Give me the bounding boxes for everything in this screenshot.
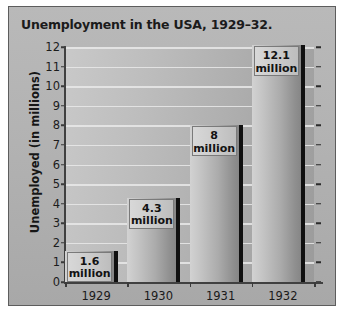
bar-shadow: [114, 251, 118, 282]
y-tick-mark-right: [316, 66, 321, 68]
y-tick-label: 11: [45, 60, 60, 74]
bar-value-label: 12.1million: [254, 46, 299, 76]
y-tick-mark-right: [316, 85, 321, 87]
x-tick-label: 1932: [268, 289, 297, 303]
bar-value-unit: million: [255, 63, 298, 76]
y-tick-label: 5: [53, 177, 60, 191]
bar-shadow: [176, 198, 180, 282]
x-tick-mark: [314, 282, 316, 287]
y-tick-label: 2: [53, 236, 60, 250]
x-tick-mark: [252, 282, 254, 287]
bar[interactable]: [252, 45, 301, 282]
y-tick-label: 0: [53, 275, 60, 289]
bar-group[interactable]: 12.1million: [252, 47, 314, 282]
y-tick-mark-right: [316, 242, 321, 244]
x-tick-label: 1930: [144, 289, 173, 303]
y-tick-mark-right: [316, 223, 321, 225]
y-tick-label: 12: [45, 40, 60, 54]
x-tick-mark: [190, 282, 192, 287]
y-tick-mark-right: [316, 105, 321, 107]
bar-value-number: 8: [193, 130, 236, 143]
x-tick-label: 1929: [81, 289, 110, 303]
bar-value-unit: million: [130, 215, 173, 228]
x-tick-mark: [127, 282, 129, 287]
chart-title: Unemployment in the USA, 1929–32.: [21, 17, 272, 32]
y-tick-label: 7: [53, 138, 60, 152]
chart-figure: Unemployment in the USA, 1929–32. Unempl…: [8, 6, 336, 306]
y-tick-label: 1: [53, 255, 60, 269]
y-tick-mark-right: [316, 164, 321, 166]
y-tick-label: 3: [53, 216, 60, 230]
x-tick-label: 1931: [206, 289, 235, 303]
bar-value-label: 8million: [192, 126, 237, 156]
bar-value-label: 1.6million: [67, 252, 112, 282]
bar-shadow: [239, 125, 243, 282]
y-tick-mark-right: [316, 46, 321, 48]
y-tick-label: 6: [53, 158, 60, 172]
y-axis-title: Unemployed (in millions): [28, 62, 42, 242]
bar-value-number: 12.1: [255, 50, 298, 63]
bar-group[interactable]: 1.6million: [65, 47, 127, 282]
bar-value-label: 4.3million: [129, 199, 174, 229]
y-tick-label: 10: [45, 79, 60, 93]
y-tick-mark-right: [316, 203, 321, 205]
y-tick-label: 9: [53, 99, 60, 113]
bar-shadow: [301, 45, 305, 282]
y-tick-mark-right: [316, 183, 321, 185]
y-tick-mark-right: [316, 262, 321, 264]
y-tick-mark-right: [316, 144, 321, 146]
bar-group[interactable]: 4.3million: [127, 47, 189, 282]
bar-value-unit: million: [68, 268, 111, 281]
bar-value-unit: million: [193, 143, 236, 156]
y-tick-mark-right: [316, 125, 321, 127]
plot-area: 0123456789101112 1.6million4.3million8mi…: [65, 47, 314, 282]
y-tick-label: 8: [53, 118, 60, 132]
x-tick-mark: [65, 282, 67, 287]
x-axis-line: [64, 282, 323, 284]
bar-group[interactable]: 8million: [190, 47, 252, 282]
y-tick-label: 4: [53, 197, 60, 211]
